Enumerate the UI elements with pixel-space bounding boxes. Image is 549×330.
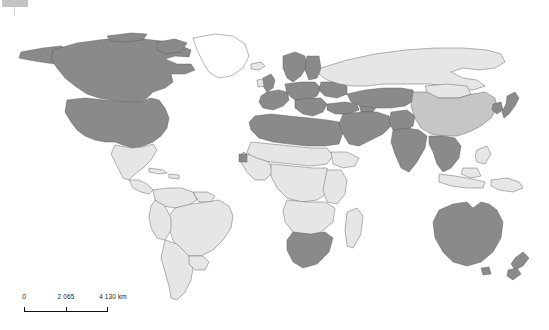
- scale-label-2: 4 130 km: [99, 293, 127, 300]
- map-figure-page: 0 2 065 4 130 km: [0, 0, 549, 330]
- cropped-ui-artifact: [2, 0, 28, 7]
- scale-tick-0: [24, 307, 25, 312]
- world-map[interactable]: [15, 12, 533, 319]
- scale-label-1: 2 065: [58, 293, 75, 300]
- scale-tick-2: [107, 307, 108, 312]
- map-scale-bar: 0 2 065 4 130 km: [20, 293, 125, 319]
- region-senegal[interactable]: [239, 154, 247, 162]
- scale-label-0: 0: [22, 293, 26, 300]
- scale-bar-labels: 0 2 065 4 130 km: [20, 293, 125, 304]
- scale-tick-1: [66, 307, 67, 312]
- scale-bar-graphic: [24, 307, 108, 312]
- region-tasmania[interactable]: [481, 267, 491, 275]
- region-hispaniola[interactable]: [169, 174, 179, 179]
- region-ireland[interactable]: [257, 79, 264, 87]
